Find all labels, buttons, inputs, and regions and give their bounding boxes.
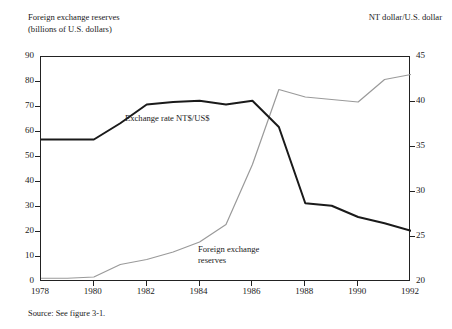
right-tick-label-40: 40: [416, 95, 450, 105]
x-tick-label-1982: 1982: [126, 286, 166, 296]
x-tick-mark-1986: [251, 281, 252, 286]
left-tick-label-90: 90: [0, 50, 34, 60]
left-tick-mark-20: [35, 231, 40, 232]
x-tick-label-1978: 1978: [20, 286, 60, 296]
source-note: Source: See figure 3-1.: [28, 309, 105, 318]
x-tick-label-1990: 1990: [337, 286, 377, 296]
x-tick-mark-1980: [93, 281, 94, 286]
right-axis-caption: NT dollar/U.S. dollar: [369, 12, 442, 24]
right-tick-label-25: 25: [416, 230, 450, 240]
x-tick-mark-1988: [304, 281, 305, 286]
right-tick-mark-30: [410, 191, 415, 192]
left-tick-mark-60: [35, 131, 40, 132]
left-tick-label-60: 60: [0, 125, 34, 135]
right-tick-label-35: 35: [416, 140, 450, 150]
x-tick-label-1988: 1988: [284, 286, 324, 296]
right-tick-mark-40: [410, 101, 415, 102]
right-tick-label-30: 30: [416, 185, 450, 195]
x-tick-label-1984: 1984: [179, 286, 219, 296]
left-tick-label-30: 30: [0, 200, 34, 210]
left-tick-label-80: 80: [0, 75, 34, 85]
x-tick-mark-1984: [199, 281, 200, 286]
left-tick-label-20: 20: [0, 225, 34, 235]
left-axis-caption: Foreign exchange reserves (billions of U…: [28, 12, 120, 35]
left-tick-mark-80: [35, 81, 40, 82]
series-line-exchange-rate: [41, 101, 411, 231]
x-tick-mark-1982: [146, 281, 147, 286]
left-tick-label-10: 10: [0, 250, 34, 260]
left-tick-mark-30: [35, 206, 40, 207]
right-tick-label-45: 45: [416, 50, 450, 60]
x-tick-label-1992: 1992: [390, 286, 430, 296]
left-tick-label-40: 40: [0, 175, 34, 185]
right-tick-label-20: 20: [416, 275, 450, 285]
right-tick-mark-25: [410, 236, 415, 237]
left-tick-label-50: 50: [0, 150, 34, 160]
left-tick-mark-50: [35, 156, 40, 157]
left-tick-label-70: 70: [0, 100, 34, 110]
right-tick-mark-35: [410, 146, 415, 147]
x-tick-mark-1990: [357, 281, 358, 286]
series-annotation-reserves: Foreign exchange reserves: [198, 244, 259, 266]
left-tick-label-0: 0: [0, 275, 34, 285]
left-tick-mark-40: [35, 181, 40, 182]
figure-container: Foreign exchange reserves (billions of U…: [0, 0, 452, 329]
x-tick-label-1986: 1986: [231, 286, 271, 296]
x-tick-label-1980: 1980: [73, 286, 113, 296]
left-tick-mark-70: [35, 106, 40, 107]
left-tick-mark-10: [35, 256, 40, 257]
series-annotation-exchange-rate: Exchange rate NT$/US$: [125, 113, 209, 124]
